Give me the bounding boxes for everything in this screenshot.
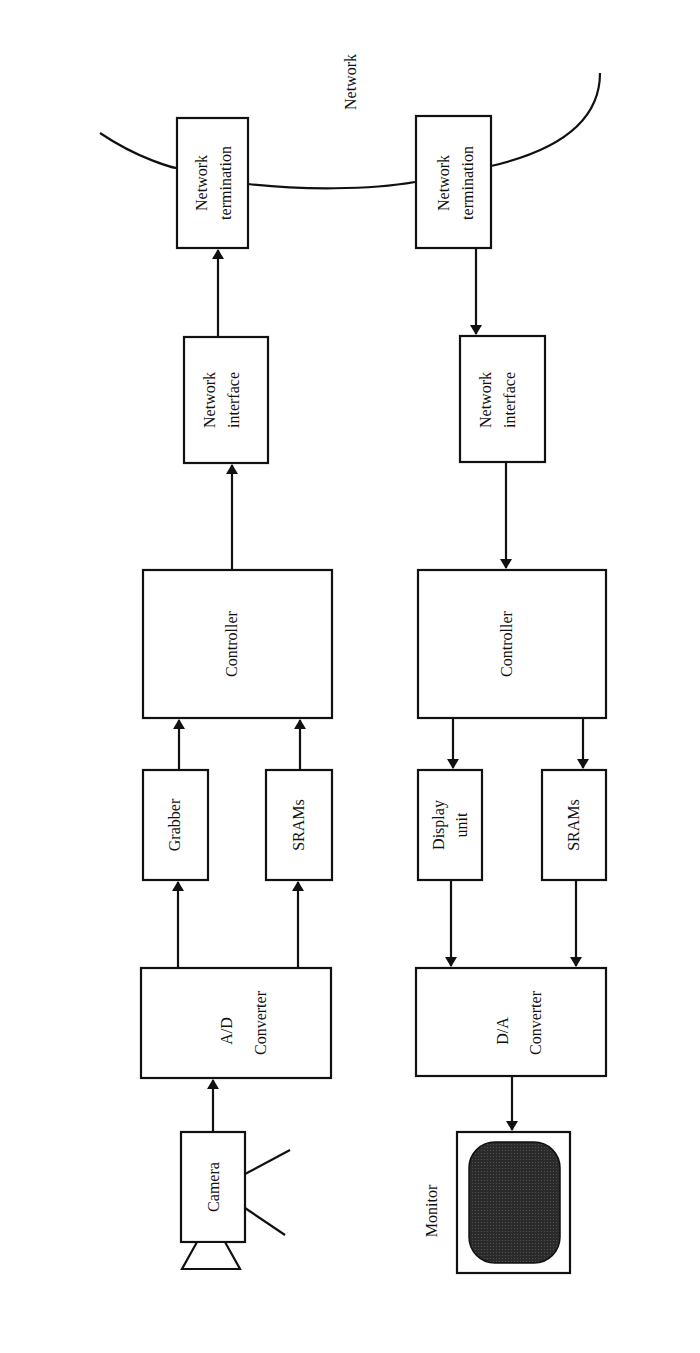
svg-text:D/A: D/A — [494, 1017, 511, 1045]
da-converter-box: D/A Converter — [416, 968, 606, 1076]
svg-text:SRAMs: SRAMs — [565, 799, 582, 851]
svg-text:interface: interface — [225, 372, 242, 428]
monitor-icon — [457, 1132, 570, 1273]
svg-text:Monitor: Monitor — [423, 1184, 440, 1237]
svg-text:Controller: Controller — [498, 610, 515, 676]
svg-text:SRAMs: SRAMs — [290, 799, 307, 851]
svg-text:Network: Network — [193, 155, 210, 211]
svg-text:A/D: A/D — [218, 1017, 235, 1045]
ad-converter-box: A/D Converter — [141, 968, 331, 1078]
grabber-box: Grabber — [143, 770, 208, 880]
svg-text:Camera: Camera — [205, 1162, 222, 1212]
rx-controller-box: Controller — [418, 570, 606, 718]
camera-icon: Camera — [181, 1132, 290, 1269]
svg-text:Display: Display — [430, 800, 448, 850]
svg-text:Converter: Converter — [527, 990, 544, 1055]
rx-network-interface-box: Network interface — [460, 336, 545, 462]
tx-network-interface-box: Network interface — [184, 337, 268, 463]
block-diagram: Network Network termination Network inte… — [0, 0, 700, 1353]
network-label: Network — [342, 54, 359, 110]
svg-text:Network: Network — [477, 372, 494, 428]
monitor-label: Monitor — [423, 1184, 440, 1237]
svg-text:termination: termination — [459, 146, 476, 220]
tx-controller-box: Controller — [143, 570, 332, 718]
svg-text:Network: Network — [201, 372, 218, 428]
svg-text:termination: termination — [217, 146, 234, 220]
svg-text:Controller: Controller — [223, 610, 240, 676]
display-unit-box: Display unit — [418, 770, 482, 880]
svg-text:Network: Network — [435, 155, 452, 211]
rx-network-termination-box: Network termination — [416, 116, 491, 248]
svg-text:Converter: Converter — [252, 990, 269, 1055]
svg-text:interface: interface — [501, 372, 518, 428]
svg-text:Grabber: Grabber — [166, 798, 183, 851]
rx-srams-box: SRAMs — [542, 770, 606, 880]
svg-text:unit: unit — [453, 812, 470, 837]
tx-network-termination-box: Network termination — [177, 118, 248, 248]
svg-text:Network: Network — [342, 54, 359, 110]
tx-srams-box: SRAMs — [266, 770, 332, 880]
